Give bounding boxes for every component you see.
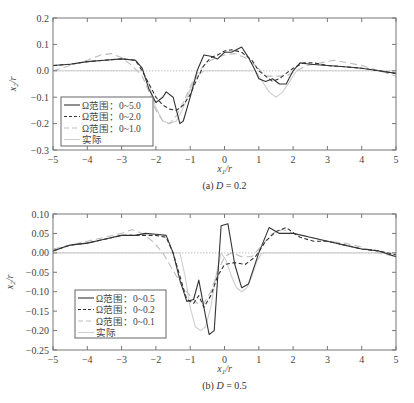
x-tick-label: −4	[82, 354, 93, 365]
y-axis-title: x2/r	[4, 275, 17, 291]
x-tick-label: −5	[48, 354, 59, 365]
x-tick-label: −5	[48, 154, 59, 165]
y-tick-label: −0.20	[26, 325, 49, 336]
x-tick-label: 4	[359, 154, 364, 165]
y-tick-label: 0.00	[32, 247, 50, 258]
chart-b: −5−4−3−2−1012345−0.25−0.20−0.15−0.10−0.0…	[4, 209, 399, 393]
x-tick-label: 2	[291, 354, 296, 365]
y-tick-label: 0.1	[37, 39, 50, 50]
x-tick-label: 1	[256, 354, 261, 365]
x-tick-label: 5	[394, 154, 399, 165]
x-tick-label: 3	[325, 354, 330, 365]
x-tick-label: 4	[359, 354, 364, 365]
figure-caption: (a) D = 0.2	[203, 180, 247, 192]
legend-label: Ω范围：0~0.2	[96, 304, 155, 315]
y-tick-label: −0.25	[26, 345, 49, 356]
legend: Ω范围：0~0.5Ω范围：0~0.2Ω范围：0~0.1实际	[75, 290, 166, 338]
legend-label: Ω范围：0~5.0	[82, 100, 141, 111]
x-tick-label: −1	[185, 154, 196, 165]
x-tick-label: −2	[151, 354, 162, 365]
legend-label: 实际	[82, 134, 102, 145]
legend: Ω范围：0~5.0Ω范围：0~2.0Ω范围：0~1.0实际	[61, 97, 153, 146]
y-tick-label: −0.2	[31, 118, 49, 129]
y-tick-label: −0.10	[26, 286, 49, 297]
y-tick-label: −0.3	[31, 145, 49, 156]
legend-label: Ω范围：0~2.0	[82, 111, 141, 122]
figure: −5−4−3−2−1012345−0.3−0.2−0.10.00.10.2x1/…	[0, 0, 414, 403]
x-tick-label: 5	[394, 354, 399, 365]
y-tick-label: 0.0	[37, 65, 50, 76]
x-tick-label: 1	[256, 154, 261, 165]
x-tick-label: −3	[116, 154, 127, 165]
y-tick-label: −0.05	[26, 267, 49, 278]
chart-a: −5−4−3−2−1012345−0.3−0.2−0.10.00.10.2x1/…	[7, 13, 399, 193]
y-axis-title: x2/r	[7, 77, 20, 93]
figure-caption: (b) D = 0.5	[202, 380, 247, 392]
legend-label: 实际	[96, 327, 116, 338]
y-tick-label: 0.10	[32, 209, 50, 220]
x-tick-label: −4	[82, 154, 93, 165]
x-tick-label: 2	[291, 154, 296, 165]
legend-label: Ω范围：0~1.0	[82, 123, 141, 134]
legend-label: Ω范围：0~0.5	[96, 293, 155, 304]
y-tick-label: 0.05	[32, 228, 50, 239]
x-tick-label: −3	[116, 354, 127, 365]
y-tick-label: 0.2	[37, 13, 50, 24]
x-tick-label: −2	[151, 154, 162, 165]
y-tick-label: −0.1	[31, 92, 49, 103]
legend-label: Ω范围：0~0.1	[96, 316, 155, 327]
x-tick-label: 3	[325, 154, 330, 165]
y-tick-label: −0.15	[26, 306, 49, 317]
x-tick-label: −1	[185, 354, 196, 365]
